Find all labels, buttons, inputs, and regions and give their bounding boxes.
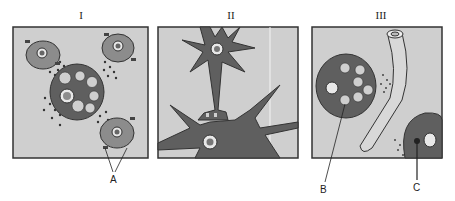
callout-c: C [413, 182, 420, 193]
callout-a: A [110, 174, 117, 185]
panel-iii [312, 27, 442, 182]
panel-ii [158, 27, 298, 158]
diagram-canvas [0, 0, 455, 201]
panel-i [13, 27, 148, 172]
callout-b: B [320, 184, 327, 195]
